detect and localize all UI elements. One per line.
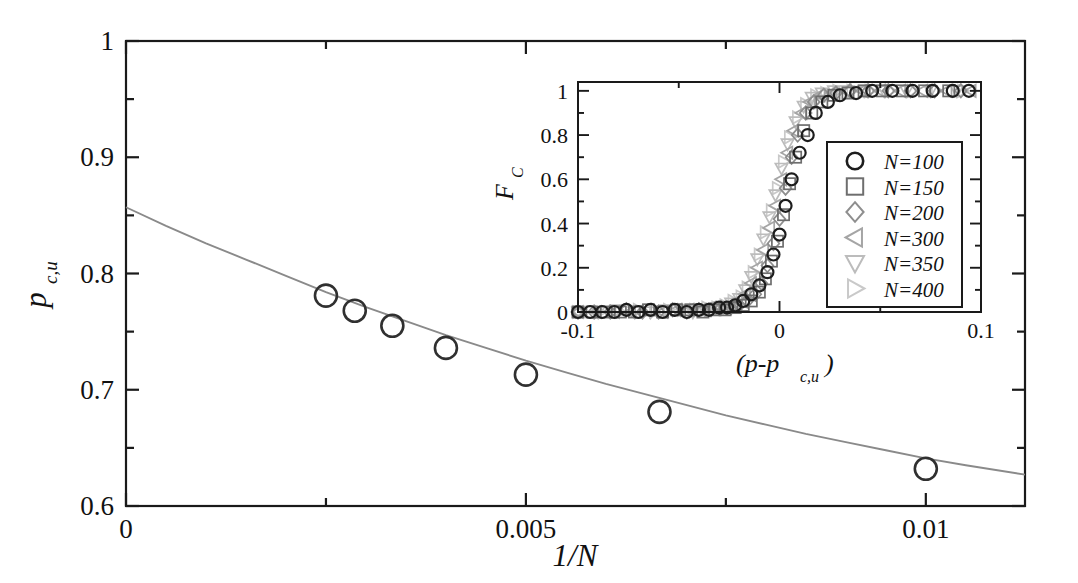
inset-x-tick-label: 0 [774, 318, 785, 343]
inset-legend: N=100N=150N=200N=300N=350N=400 [827, 142, 962, 307]
marker-circle [381, 315, 403, 337]
legend-label-400: N=400 [883, 278, 944, 302]
x-tick-label: 0.01 [902, 514, 949, 544]
inset-x-axis-label: (p-p c,u ) [736, 349, 834, 385]
figure-root: 00.0050.01 0.60.70.80.91 1/N p c,u -0.10… [0, 0, 1078, 583]
inset-y-tick-label: 0.4 [541, 212, 569, 237]
marker-circle [648, 401, 670, 423]
legend-label-300: N=300 [883, 227, 944, 251]
main-y-axis-label-sub: c,u [40, 261, 61, 284]
marker-circle [915, 458, 937, 480]
main-data-point [915, 458, 937, 480]
inset-x-axis-label-part3: ) [823, 349, 834, 378]
y-tick-label: 0.6 [80, 491, 114, 521]
x-tick-label: 0 [119, 514, 133, 544]
main-data-point [648, 401, 670, 423]
inset-y-axis-label-sub: C [509, 167, 526, 178]
marker-circle [435, 337, 457, 359]
inset-x-axis-label-sub: c,u [800, 368, 819, 385]
main-data-point [515, 364, 537, 386]
inset-y-axis-label: F C [490, 167, 526, 201]
main-y-tick-labels: 0.60.70.80.91 [80, 26, 114, 521]
inset-y-tick-label: 0.2 [541, 256, 569, 281]
main-x-axis-label: 1/N [553, 538, 600, 573]
main-x-tick-labels: 00.0050.01 [119, 514, 949, 544]
inset-x-tick-labels: -0.100.1 [561, 318, 995, 343]
inset-y-tick-label: 0.8 [541, 123, 569, 148]
main-y-axis-label: p c,u [18, 261, 61, 309]
inset-y-tick-label: 1 [557, 79, 568, 104]
inset-x-axis-label-part1: (p-p [736, 349, 779, 378]
scientific-figure: 00.0050.01 0.60.70.80.91 1/N p c,u -0.10… [0, 0, 1078, 583]
legend-label-350: N=350 [883, 252, 944, 276]
marker-circle [515, 364, 537, 386]
y-tick-label: 0.7 [80, 375, 114, 405]
legend-label-200: N=200 [883, 201, 944, 225]
main-data-point [435, 337, 457, 359]
main-x-axis-label-text: 1/N [553, 538, 600, 573]
inset-x-tick-label: 0.1 [967, 318, 995, 343]
y-tick-label: 0.8 [80, 259, 114, 289]
inset-y-tick-labels: 00.20.40.60.81 [541, 79, 569, 325]
legend-label-150: N=150 [883, 176, 944, 200]
main-data-point [381, 315, 403, 337]
y-tick-label: 1 [101, 26, 115, 56]
y-tick-label: 0.9 [80, 142, 114, 172]
inset-y-tick-label: 0.6 [541, 167, 569, 192]
inset-y-tick-label: 0 [557, 300, 568, 325]
legend-label-100: N=100 [883, 150, 944, 174]
x-tick-label: 0.005 [496, 514, 557, 544]
main-y-axis-label-base: p [18, 292, 53, 310]
inset-plot: -0.100.1 00.20.40.60.81 (p-p c,u ) F C N… [490, 79, 995, 385]
inset-y-axis-label-base: F [490, 183, 519, 201]
